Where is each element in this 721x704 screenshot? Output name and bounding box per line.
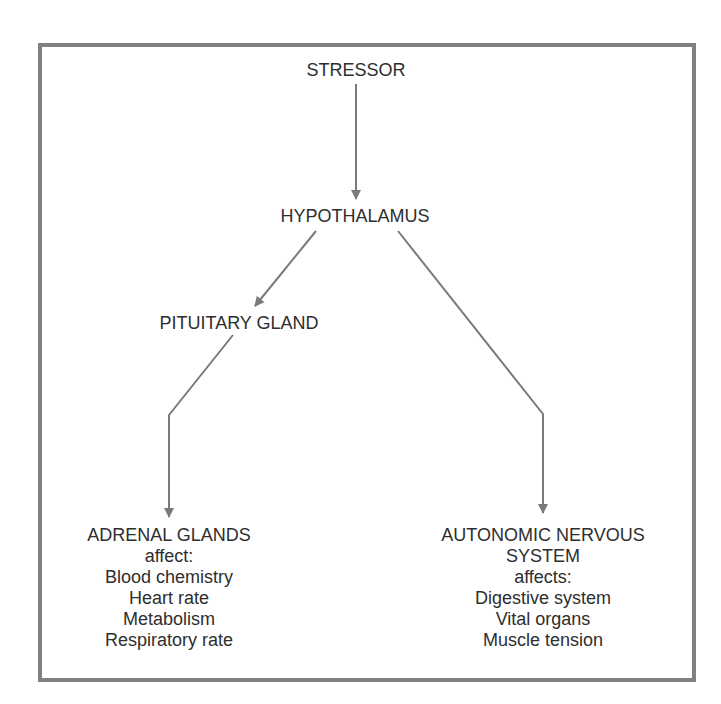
node-stressor: STRESSOR [306, 60, 405, 81]
node-autonomic-nervous-system: AUTONOMIC NERVOUS SYSTEM affects: Digest… [441, 525, 644, 651]
node-adrenal-glands: ADRENAL GLANDS affect: Blood chemistry H… [87, 525, 250, 651]
effect-item: Muscle tension [441, 630, 644, 651]
node-title: ADRENAL GLANDS [87, 525, 250, 546]
node-pituitary-gland: PITUITARY GLAND [159, 313, 318, 334]
arrow-pituitary-to-adrenal [169, 335, 233, 517]
effect-item: Heart rate [87, 588, 250, 609]
effect-item: Metabolism [87, 609, 250, 630]
effect-item: Respiratory rate [87, 630, 250, 651]
effect-item: Digestive system [441, 588, 644, 609]
node-title: SYSTEM [441, 546, 644, 567]
node-title: AUTONOMIC NERVOUS [441, 525, 644, 546]
node-label: HYPOTHALAMUS [280, 206, 429, 227]
node-label: STRESSOR [306, 60, 405, 81]
node-label: PITUITARY GLAND [159, 313, 318, 334]
node-verb: affect: [87, 546, 250, 567]
arrow-hypothalamus-to-autonomic [398, 231, 543, 513]
effect-item: Blood chemistry [87, 567, 250, 588]
arrow-hypothalamus-to-pituitary [255, 231, 316, 306]
node-verb: affects: [441, 567, 644, 588]
effect-item: Vital organs [441, 609, 644, 630]
node-hypothalamus: HYPOTHALAMUS [280, 206, 429, 227]
